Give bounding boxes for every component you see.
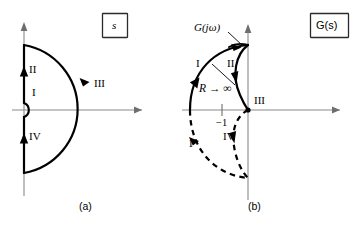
panel-a-label-II: II: [29, 64, 36, 75]
minus-one-label: −1: [216, 118, 227, 129]
caption-a: (a): [79, 201, 92, 212]
g-jomega-label: G(jω): [194, 22, 220, 33]
r-infinity-label: R → ∞: [199, 83, 231, 95]
panel-b-label-II: II: [227, 58, 234, 69]
gs-plane-box-label: G(s): [316, 20, 337, 31]
panel-a-imag-axis-arrowhead: [21, 22, 28, 31]
panel-a-label-I: I: [32, 87, 36, 98]
panel-a-real-axis-arrowhead: [134, 107, 142, 114]
panel-b-axes: [182, 24, 340, 200]
panel-b-label-I-upper: I: [196, 58, 200, 69]
caption-b: (b): [248, 201, 261, 212]
panel-b-label-I-lower: I: [189, 138, 193, 149]
panel-a-label-IV: IV: [29, 131, 41, 142]
figure-root: s II I III IV (a) G(s) G(jω) R → ∞ −1 I …: [0, 0, 354, 226]
panel-b-label-IV: IV: [223, 131, 235, 142]
panel-a-segment-II-arrowhead: [20, 66, 28, 77]
panel-a-segment-III-arrowhead: [80, 78, 90, 87]
s-plane-box-label: s: [112, 20, 116, 31]
figure-canvas: [0, 0, 354, 226]
panel-b-imag-axis-arrowhead: [245, 24, 252, 33]
panel-a-segment-IV-arrowhead: [20, 133, 28, 144]
panel-b-real-axis-arrowhead: [332, 107, 340, 114]
panel-a-label-III: III: [94, 78, 105, 89]
panel-b-segment-II-arrowhead: [231, 71, 238, 84]
panel-b-label-III: III: [254, 95, 265, 106]
panel-b-segment-IV-path: [233, 110, 248, 178]
